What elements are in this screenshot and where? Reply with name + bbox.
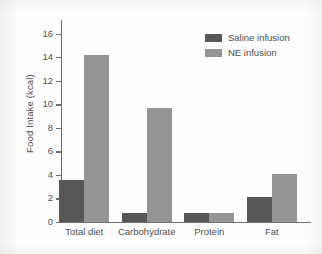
x-tick-label: Protein [194, 226, 224, 237]
legend-label: Saline infusion [228, 32, 290, 43]
legend-entry: NE infusion [205, 46, 290, 59]
x-tick-label: Total diet [65, 226, 103, 237]
bar [122, 213, 147, 222]
y-tick-mark [56, 222, 61, 223]
y-tick-label: 14 [42, 53, 53, 63]
bar-group [59, 22, 109, 222]
x-tick-label: Carbohydrate [118, 226, 176, 237]
bar [184, 213, 209, 222]
bar [147, 108, 172, 222]
bar-group [122, 22, 172, 222]
y-tick-label: 4 [48, 170, 53, 180]
bar [84, 55, 109, 222]
bar [272, 174, 297, 222]
y-tick-label: 6 [48, 147, 53, 157]
x-tick-label: Fat [265, 226, 279, 237]
bar [59, 180, 84, 222]
legend: Saline infusionNE infusion [205, 31, 290, 61]
y-axis-title: Food Intake (kcal) [24, 39, 35, 189]
y-tick-label: 16 [42, 29, 53, 39]
bar [209, 213, 234, 222]
y-tick-label: 12 [42, 76, 53, 86]
legend-label: NE infusion [228, 47, 277, 58]
bar-chart-figure: Food Intake (kcal) 0246810121416 Total d… [0, 0, 322, 254]
y-tick-label: 8 [48, 123, 53, 133]
bar [247, 197, 272, 222]
legend-swatch [205, 49, 222, 57]
legend-swatch [205, 34, 222, 42]
y-tick-label: 10 [42, 100, 53, 110]
y-tick-label: 0 [48, 217, 53, 227]
legend-entry: Saline infusion [205, 31, 290, 44]
y-tick-label: 2 [48, 194, 53, 204]
